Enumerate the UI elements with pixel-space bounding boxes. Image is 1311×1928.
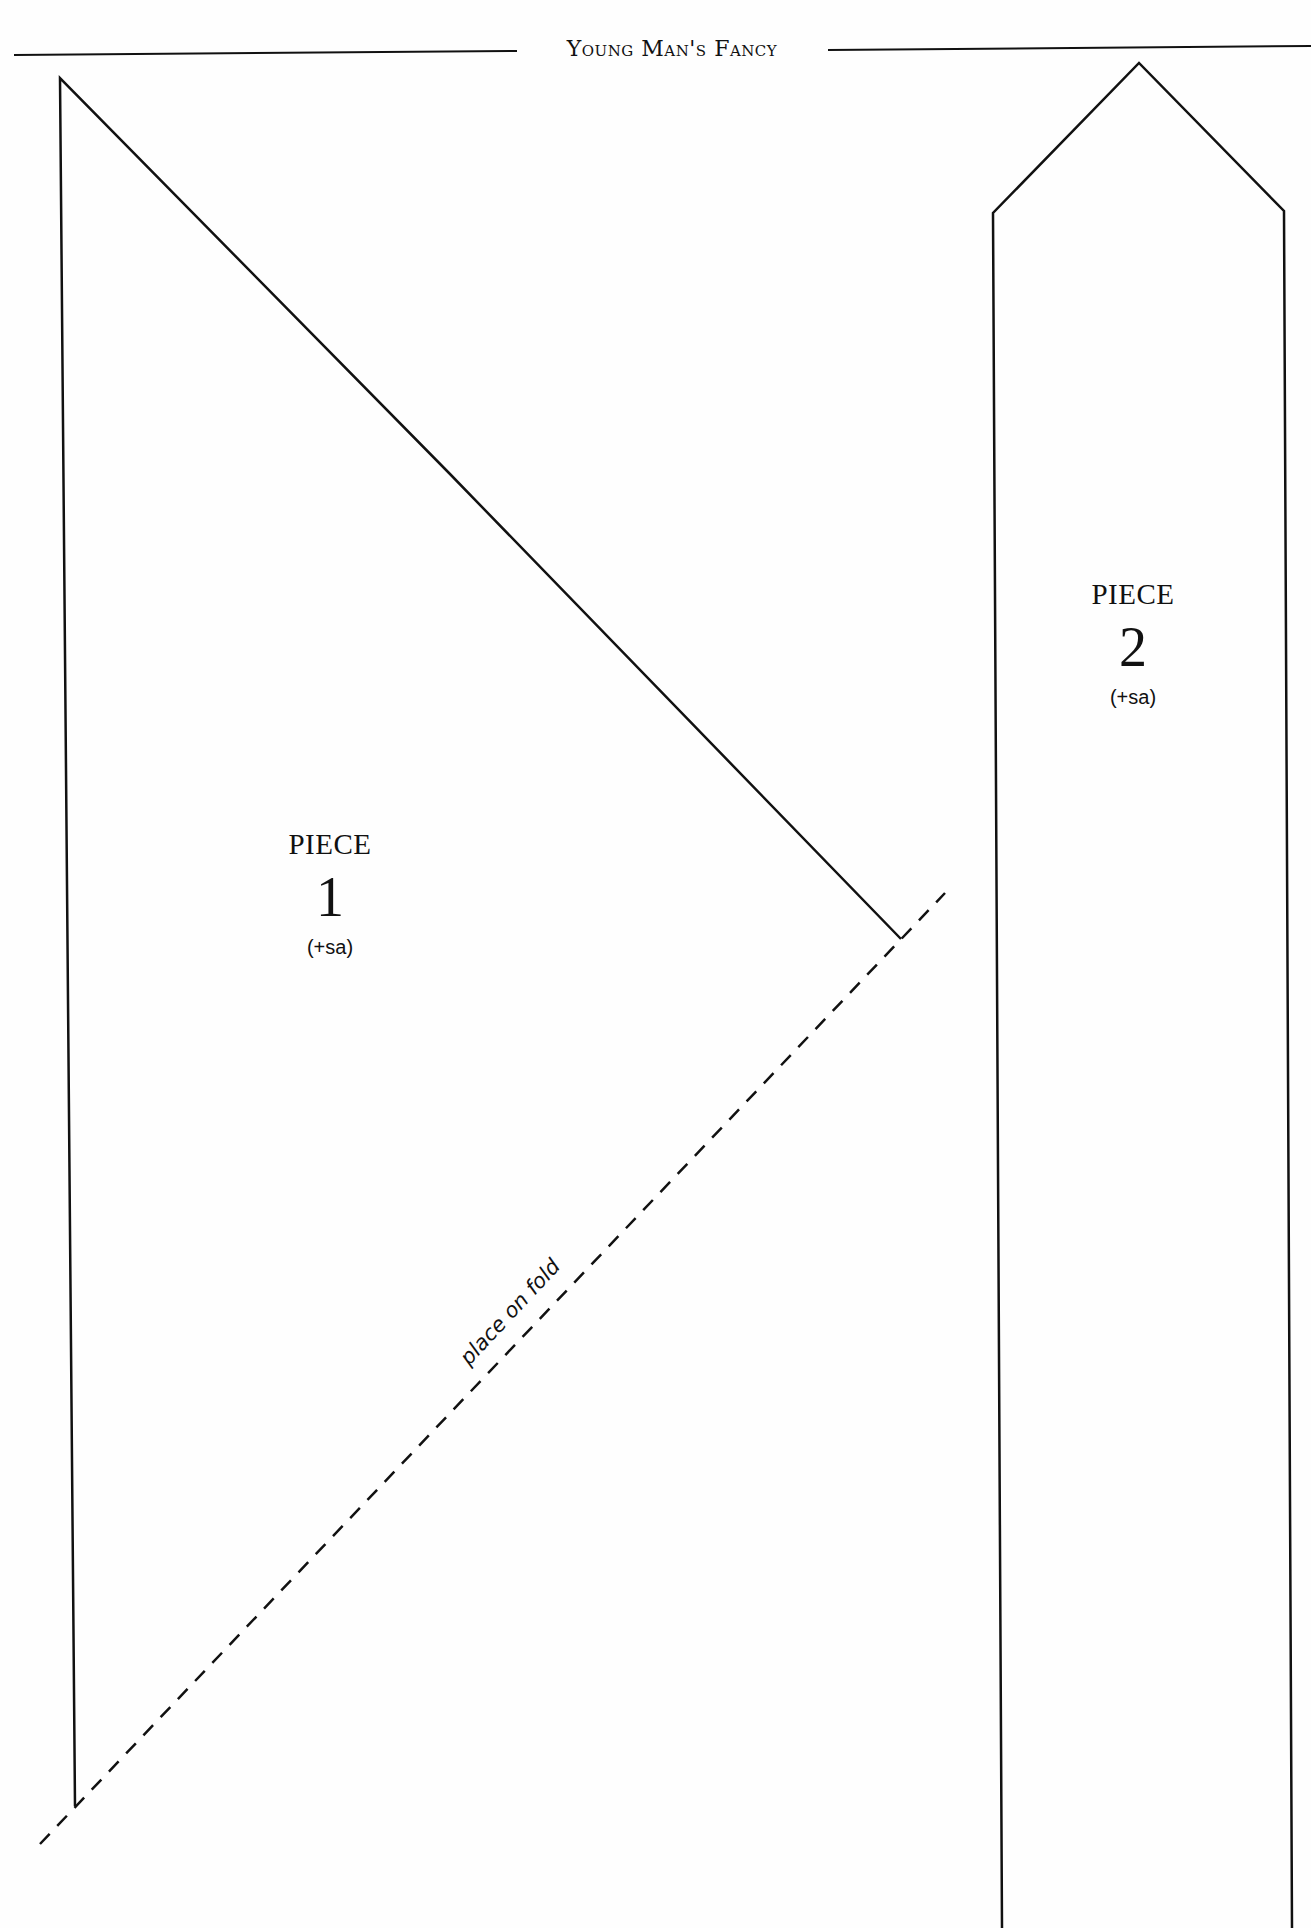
piece-2-seam-allowance: (+sa) xyxy=(1073,687,1193,707)
piece-1-number: 1 xyxy=(270,869,390,925)
pattern-page: Young Man's Fancy PIECE 1 (+sa) PIECE 2 … xyxy=(0,0,1311,1928)
header-rule-right xyxy=(828,46,1311,50)
piece-2-label: PIECE 2 (+sa) xyxy=(1073,580,1193,707)
header-rule-left xyxy=(14,51,517,55)
piece-1-label: PIECE 1 (+sa) xyxy=(270,830,390,957)
piece-2-outline xyxy=(993,63,1292,1928)
fold-dashed-line xyxy=(40,893,945,1844)
pattern-drawing xyxy=(0,0,1311,1928)
piece-2-word: PIECE xyxy=(1073,580,1193,609)
piece-2-number: 2 xyxy=(1073,619,1193,675)
page-title: Young Man's Fancy xyxy=(522,36,822,61)
piece-1-outline xyxy=(60,78,901,1806)
piece-1-word: PIECE xyxy=(270,830,390,859)
piece-1-seam-allowance: (+sa) xyxy=(270,937,390,957)
